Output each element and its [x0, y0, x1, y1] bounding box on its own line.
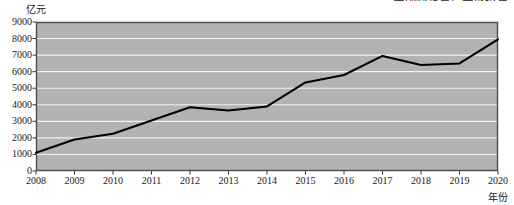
- y-axis-tick-label: 4000: [2, 100, 32, 110]
- x-axis-tick-label: 2012: [180, 176, 200, 186]
- x-axis-tick-label: 2014: [257, 176, 277, 186]
- x-axis-tick-label: 2008: [26, 176, 46, 186]
- x-axis-tick-labels: 2008200920102011201220132014201520162017…: [0, 176, 514, 190]
- x-axis-tick-label: 2020: [488, 176, 508, 186]
- x-axis-tick-label: 2010: [103, 176, 123, 186]
- y-axis-tick-label: 2000: [2, 133, 32, 143]
- y-axis-tick-label: 5000: [2, 83, 32, 93]
- x-axis-tick-label: 2017: [373, 176, 393, 186]
- y-axis-tick-label: 1000: [2, 149, 32, 159]
- x-axis-tick-label: 2019: [450, 176, 470, 186]
- y-axis-tick-label: 8000: [2, 34, 32, 44]
- x-axis-tick-label: 2013: [219, 176, 239, 186]
- x-axis-tick-label: 2015: [296, 176, 316, 186]
- plot-background: [36, 22, 498, 171]
- x-axis-tick-label: 2016: [334, 176, 354, 186]
- y-axis-tick-label: 7000: [2, 50, 32, 60]
- y-axis-tick-label: 9000: [2, 17, 32, 27]
- x-axis-tick-label: 2018: [411, 176, 431, 186]
- y-axis-tick-label: 3000: [2, 116, 32, 126]
- chart-top-caption: 中国固定资产完成投资: [393, 0, 508, 1]
- y-axis-ticks: [33, 22, 37, 171]
- x-axis-tick-label: 2009: [65, 176, 85, 186]
- x-axis-title-label: 年份: [488, 189, 508, 204]
- chart-figure: 中国固定资产完成投资 亿元 01000200030004000500060007…: [0, 0, 514, 205]
- x-axis-tick-label: 2011: [142, 176, 162, 186]
- x-axis-ticks: [36, 171, 498, 175]
- y-axis-tick-label: 6000: [2, 67, 32, 77]
